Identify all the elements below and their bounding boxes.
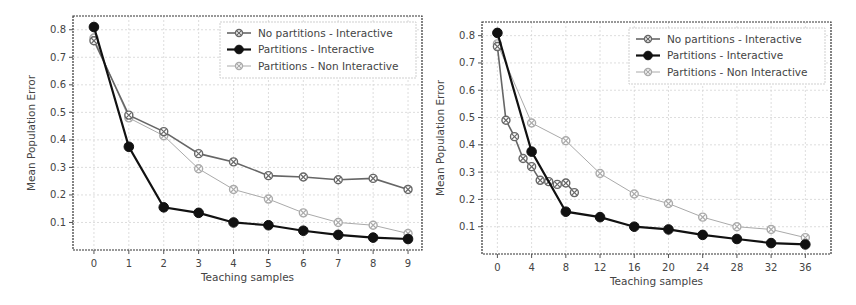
data-point-marker xyxy=(299,226,309,236)
data-point-marker xyxy=(264,220,274,230)
legend-entry-label: Partitions - Non Interactive xyxy=(258,60,399,72)
data-point-marker xyxy=(368,233,378,243)
legend-entry-label: Partitions - Non Interactive xyxy=(667,66,808,78)
y-tick-label: 0.6 xyxy=(50,79,66,90)
x-tick-label: 0 xyxy=(91,258,97,269)
x-tick-label: 28 xyxy=(731,262,744,273)
x-tick-label: 20 xyxy=(662,262,675,273)
x-tick-label: 12 xyxy=(594,262,607,273)
x-tick-label: 16 xyxy=(628,262,641,273)
data-point-marker xyxy=(527,147,537,157)
data-point-marker xyxy=(235,45,244,54)
y-tick-label: 0.6 xyxy=(459,85,475,96)
x-tick-label: 7 xyxy=(335,258,341,269)
legend-entry-label: Partitions - Interactive xyxy=(667,49,783,61)
x-tick-label: 4 xyxy=(528,262,534,273)
figure-canvas: 01234567890.10.20.30.40.50.60.70.8Teachi… xyxy=(0,0,856,305)
y-tick-label: 0.7 xyxy=(50,52,66,63)
x-tick-label: 3 xyxy=(195,258,201,269)
y-axis-label: Mean Population Error xyxy=(25,74,37,191)
data-point-marker xyxy=(229,218,239,228)
legend-entry-label: No partitions - Interactive xyxy=(258,27,393,39)
data-point-marker xyxy=(801,240,811,250)
data-point-marker xyxy=(124,142,134,152)
data-point-marker xyxy=(89,22,99,32)
x-tick-label: 9 xyxy=(405,258,411,269)
x-tick-label: 0 xyxy=(494,262,500,273)
x-tick-label: 8 xyxy=(370,258,376,269)
x-tick-label: 36 xyxy=(799,262,812,273)
data-point-marker xyxy=(403,234,413,244)
y-tick-label: 0.8 xyxy=(50,24,66,35)
x-tick-label: 4 xyxy=(230,258,236,269)
y-tick-label: 0.5 xyxy=(459,112,475,123)
y-tick-label: 0.1 xyxy=(50,217,66,228)
data-point-marker xyxy=(644,51,653,60)
y-tick-label: 0.1 xyxy=(459,221,475,232)
data-point-marker xyxy=(629,222,639,232)
chart-panel-2: 048121620242832360.10.20.30.40.50.60.70.… xyxy=(434,22,831,287)
data-point-marker xyxy=(595,212,605,222)
y-tick-label: 0.2 xyxy=(459,194,475,205)
chart-panel-1: 01234567890.10.20.30.40.50.60.70.8Teachi… xyxy=(25,16,422,283)
data-point-marker xyxy=(732,234,742,244)
x-tick-label: 5 xyxy=(265,258,271,269)
legend-entry-label: No partitions - Interactive xyxy=(667,33,802,45)
x-tick-label: 6 xyxy=(300,258,306,269)
y-tick-label: 0.3 xyxy=(459,167,475,178)
data-point-marker xyxy=(333,230,343,240)
x-axis-label: Teaching samples xyxy=(200,271,294,283)
data-point-marker xyxy=(194,208,204,218)
figure: 01234567890.10.20.30.40.50.60.70.8Teachi… xyxy=(0,0,856,305)
data-point-marker xyxy=(493,28,503,38)
y-axis-label: Mean Population Error xyxy=(434,79,446,196)
x-tick-label: 24 xyxy=(696,262,709,273)
y-tick-label: 0.7 xyxy=(459,57,475,68)
data-point-marker xyxy=(766,238,776,248)
y-tick-label: 0.4 xyxy=(459,139,475,150)
y-tick-label: 0.3 xyxy=(50,162,66,173)
x-tick-label: 8 xyxy=(563,262,569,273)
data-point-marker xyxy=(159,203,169,213)
data-point-marker xyxy=(561,207,571,217)
y-tick-label: 0.4 xyxy=(50,134,66,145)
y-tick-label: 0.2 xyxy=(50,189,66,200)
legend: No partitions - InteractivePartitions - … xyxy=(629,28,825,84)
x-tick-label: 32 xyxy=(765,262,778,273)
data-point-marker xyxy=(664,225,674,235)
x-tick-label: 2 xyxy=(161,258,167,269)
x-tick-label: 1 xyxy=(126,258,132,269)
legend: No partitions - InteractivePartitions - … xyxy=(220,22,416,78)
data-point-marker xyxy=(698,230,708,240)
y-tick-label: 0.5 xyxy=(50,107,66,118)
x-axis-label: Teaching samples xyxy=(609,275,703,287)
legend-entry-label: Partitions - Interactive xyxy=(258,43,374,55)
y-tick-label: 0.8 xyxy=(459,30,475,41)
